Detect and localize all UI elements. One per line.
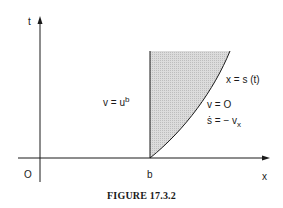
curve-label: x = s (t) bbox=[226, 75, 260, 85]
diagram-canvas bbox=[0, 0, 283, 208]
x-axis-arrow-icon bbox=[262, 156, 270, 161]
origin-label: O bbox=[24, 170, 32, 180]
left-region-label: v = ub bbox=[103, 96, 129, 108]
right-region-s-label: ṡ = − vx bbox=[207, 116, 241, 129]
b-label: b bbox=[147, 170, 153, 180]
t-axis-label: t bbox=[28, 17, 31, 27]
x-axis-label: x bbox=[262, 172, 267, 182]
right-region-s-subscript: x bbox=[237, 120, 241, 129]
left-region-lhs: v = u bbox=[103, 97, 125, 108]
left-region-superscript: b bbox=[125, 95, 129, 104]
figure-caption: FIGURE 17.3.2 bbox=[0, 190, 283, 201]
right-region-s-lhs: ṡ = − v bbox=[207, 115, 237, 126]
right-region-v-label: v = O bbox=[207, 100, 231, 110]
t-axis-arrow-icon bbox=[38, 16, 43, 24]
